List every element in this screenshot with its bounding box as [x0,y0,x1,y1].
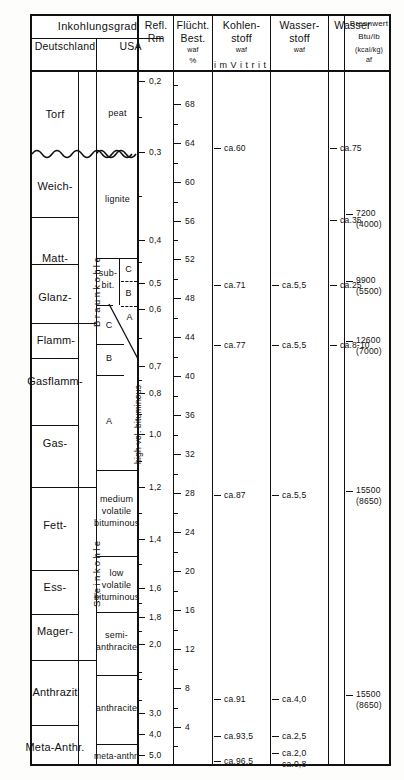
carbon-value: ca.87 [214,490,246,500]
usa-rank-lvb-line3: bituminous [94,592,139,604]
volatile-tick-minor [174,279,178,280]
volatile-tick-label: 16 [185,605,195,615]
volatile-tick-minor [174,708,178,709]
volatile-tick-major [174,104,181,105]
carbon-value: ca.93,5 [214,731,253,741]
volatile-tick-minor [174,240,178,241]
usa-div-mvb-lvb [96,556,137,557]
volatile-tick-major [174,532,181,533]
heat-value: 12600(7000) [346,335,382,357]
volatile-tick-minor [174,318,178,319]
refl-tick-label: 0,3 [149,147,161,157]
heat-value-btu: 15500 [356,689,382,700]
refl-tick-minor [138,461,142,462]
refl-tick-label: 2,0 [149,639,161,649]
value-leader-dash [346,491,353,492]
value-leader-dash [346,214,353,215]
carbon-value-text: ca.93,5 [224,731,253,741]
value-leader-dash [272,753,279,754]
value-leader-dash [214,345,221,346]
header-refl-line1: Refl. [139,20,173,32]
refl-tick-label: 1,0 [149,429,161,439]
value-leader-dash [214,761,221,762]
volatile-tick-label: 64 [185,138,195,148]
value-leader-dash [214,736,221,737]
value-leader-dash [330,345,337,346]
heat-value-lines: 15500(8650) [356,485,382,507]
heat-value-kcal: (8650) [356,700,382,711]
usa-rank-semi-line1: semi- [96,630,137,642]
volatile-tick-major [174,143,181,144]
carbon-value-text: ca.96,5 [224,756,253,766]
usa-rank-mvb-line1: medium [96,494,137,506]
value-leader-dash [330,148,337,149]
hydrogen-value-text: ca.5,5 [282,490,306,500]
refl-tick-minor [138,700,142,701]
german-rank-glanz: Glanz- [30,291,80,305]
usa-rank-subbit-line1: sub- [96,268,120,280]
usa-div-hvb-b-a [96,375,124,376]
volatile-tick-label: 4 [185,722,190,732]
volatile-tick-label: 12 [185,644,195,654]
coal-rank-correlation-chart: Inkohlungsgrad Deutschland USA Refl. Rm … [0,0,404,780]
value-leader-dash [330,220,337,221]
usa-div-semi-anthracite [96,675,137,676]
water-value-text: ca.75 [340,143,362,153]
usa-rank-lvb-line2: volatile [96,580,137,592]
usa-hvb-rank-a: A [96,416,122,428]
usa-rank-high-vol-bituminous: high vol. bituminous [133,385,143,464]
volatile-tick-minor [174,396,178,397]
header-deutschland: Deutschland [32,41,98,53]
heat-value: 15500(8650) [346,485,382,507]
volatile-tick-label: 68 [185,99,195,109]
heat-value-kcal: (4000) [356,219,382,230]
value-leader-dash [272,345,279,346]
refl-tick-major [138,713,145,714]
volatile-tick-label: 52 [185,254,195,264]
hydrogen-value-text: ca.2,5 [282,731,306,741]
refl-tick-label: 1,6 [149,583,161,593]
german-div-gasflamm-gas [32,425,78,426]
col-sep-hydrogen-water [328,16,329,765]
refl-tick-major [138,393,145,394]
refl-tick-major [138,644,145,645]
usa-subbit-rank-c: C [120,264,137,276]
hydrogen-value: ca.2,5 [272,731,306,741]
volatile-tick-major [174,610,181,611]
usa-div-lvb-semi [96,612,137,613]
usa-hvb-rank-c: C [96,320,122,332]
header-volatile-waf: waf [174,46,212,54]
usa-rank-subbit-line2: bit. [96,280,120,292]
hydrogen-value-text: ca.2,0 [282,748,306,758]
col-sep-refl-vol [173,16,174,765]
usa-rank-lignite: lignite [98,194,137,206]
refl-tick-major [138,283,145,284]
refl-tick-minor [138,117,142,118]
water-value: ca.75 [330,143,362,153]
header-hydrogen-line1: Wasser- [271,20,328,32]
refl-tick-major [138,152,145,153]
volatile-tick-label: 28 [185,488,195,498]
usa-subbit-c-b-divider [121,281,137,282]
header-hydrogen-waf: waf [271,46,328,54]
volatile-tick-major [174,454,181,455]
volatile-tick-major [174,376,181,377]
usa-rank-peat: peat [98,108,137,120]
wavy-boundary-peat-lignite-right [96,145,140,161]
refl-tick-major [138,81,145,82]
refl-tick-label: 1,4 [149,534,161,544]
german-div-weich-matt [32,217,78,218]
german-rank-fett: Fett- [30,519,80,533]
usa-rank-semi-line2: anthracite [94,642,139,654]
heat-value: 9900(5500) [346,275,382,297]
refl-tick-label: 1,8 [149,612,161,622]
volatile-tick-minor [174,746,178,747]
hydrogen-value: ca.5,5 [272,280,306,290]
german-rank-anthrazit: Anthrazit [26,686,84,700]
refl-tick-major [138,366,145,367]
refl-tick-major [138,539,145,540]
header-heat-line3: (kcal/kg) [345,46,393,54]
hydrogen-value: ca.5,5 [272,340,306,350]
volatile-tick-label: 40 [185,371,195,381]
volatile-tick-major [174,688,181,689]
